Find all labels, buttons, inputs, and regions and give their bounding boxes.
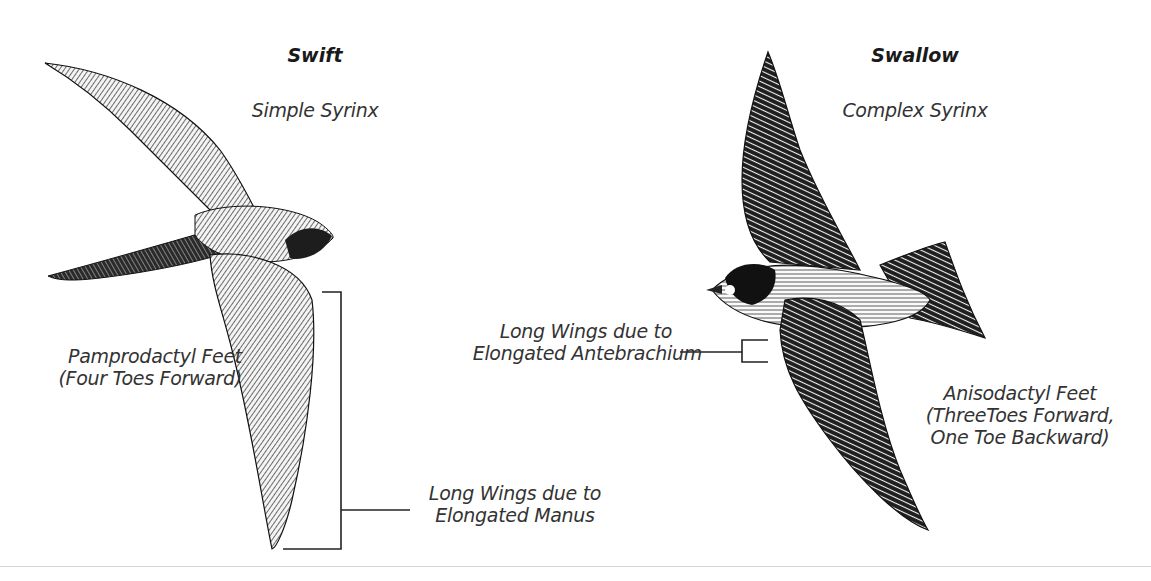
swallow-illustration <box>706 52 985 530</box>
swift-wings-label-line1: Long Wings due to <box>405 482 625 504</box>
swift-syrinx-label: Simple Syrinx <box>215 99 415 121</box>
swift-illustration <box>45 63 333 549</box>
swallow-title: Swallow <box>860 44 970 66</box>
bottom-divider <box>0 566 1151 567</box>
swift-title: Swift <box>265 44 365 66</box>
swallow-syrinx-label: Complex Syrinx <box>825 99 1005 121</box>
swallow-wings-label-line2: Elongated Antebrachium <box>440 342 702 364</box>
swallow-feet-label-line1: Anisodactyl Feet <box>910 382 1130 404</box>
swift-wings-label-line2: Elongated Manus <box>405 504 625 526</box>
swallow-lower-wing <box>780 298 928 530</box>
swallow-wings-label-line1: Long Wings due to <box>440 320 672 342</box>
swallow-feet-label-line2: (ThreeToes Forward, <box>910 404 1130 426</box>
swallow-feet-label-line3: One Toe Backward) <box>910 426 1130 448</box>
swift-lower-wing <box>210 254 314 549</box>
swallow-upper-wing <box>742 52 860 270</box>
swift-upper-wing <box>45 63 258 230</box>
swift-feet-label-line1: Pamprodactyl Feet <box>20 345 242 367</box>
swift-feet-label-line2: (Four Toes Forward) <box>20 367 242 389</box>
